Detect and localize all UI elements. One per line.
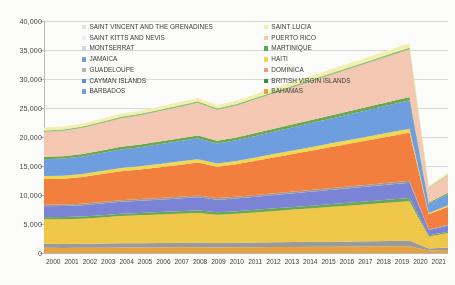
x-tick-label: 2008 bbox=[191, 258, 209, 272]
y-tick-label: 10,000 bbox=[19, 191, 42, 200]
x-axis-line bbox=[44, 253, 448, 254]
x-tick-label: 2016 bbox=[338, 258, 356, 272]
x-tick-label: 2010 bbox=[228, 258, 246, 272]
y-tick-label: 20,000 bbox=[19, 133, 42, 142]
y-tick-label: 0 bbox=[38, 249, 42, 258]
x-tick-label: 2011 bbox=[246, 258, 264, 272]
x-tick-label: 2017 bbox=[356, 258, 374, 272]
x-tick-label: 2003 bbox=[99, 258, 117, 272]
x-tick-label: 2006 bbox=[154, 258, 172, 272]
x-tick-label: 2015 bbox=[319, 258, 337, 272]
x-tick-label: 2020 bbox=[411, 258, 429, 272]
x-tick-label: 2002 bbox=[81, 258, 99, 272]
y-tick-label: 40,000 bbox=[19, 17, 42, 26]
x-tick-label: 2018 bbox=[374, 258, 392, 272]
x-tick-label: 2021 bbox=[430, 258, 448, 272]
plot-area bbox=[44, 21, 448, 253]
stacked-area-chart: 40,00035,00030,00025,00020,00015,00010,0… bbox=[0, 0, 455, 285]
y-tick-label: 5,000 bbox=[24, 220, 43, 229]
x-tick-label: 2009 bbox=[209, 258, 227, 272]
x-tick-label: 2000 bbox=[44, 258, 62, 272]
x-tick-label: 2005 bbox=[136, 258, 154, 272]
y-tick-label: 25,000 bbox=[19, 104, 42, 113]
x-tick-label: 2001 bbox=[62, 258, 80, 272]
stacked-area-paths bbox=[44, 21, 448, 253]
x-axis: 2000200120022003200420052006200720082009… bbox=[44, 258, 448, 272]
x-tick-label: 2013 bbox=[283, 258, 301, 272]
y-tick-label: 35,000 bbox=[19, 46, 42, 55]
y-tick-label: 15,000 bbox=[19, 162, 42, 171]
y-tick-label: 30,000 bbox=[19, 75, 42, 84]
x-tick-label: 2012 bbox=[264, 258, 282, 272]
x-tick-label: 2014 bbox=[301, 258, 319, 272]
x-tick-label: 2007 bbox=[173, 258, 191, 272]
x-tick-label: 2004 bbox=[117, 258, 135, 272]
x-tick-label: 2019 bbox=[393, 258, 411, 272]
